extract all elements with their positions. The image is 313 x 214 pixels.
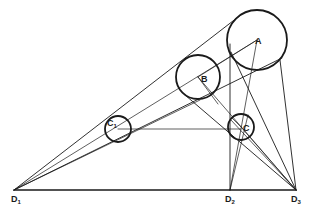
label-a: A <box>255 36 262 46</box>
label-d3-sub: 3 <box>298 199 302 205</box>
geometric-diagram: A B C C1 D1 D2 D3 <box>0 0 313 214</box>
label-c1: C1 <box>107 118 118 129</box>
label-c1-sub: 1 <box>114 123 118 129</box>
label-b: B <box>201 74 208 84</box>
label-c: C <box>243 123 250 133</box>
label-d1: D1 <box>11 194 22 205</box>
line-d1-b-lower <box>14 100 200 190</box>
label-d2-sub: 2 <box>232 199 236 205</box>
tangent-d3-a-right <box>280 60 296 190</box>
tangent-d1-upper <box>14 14 242 190</box>
label-d3: D3 <box>291 194 302 205</box>
label-d2: D2 <box>225 194 236 205</box>
line-d3-b-tangent <box>185 95 296 190</box>
label-d1-sub: 1 <box>18 199 22 205</box>
tangent-d3-a-left <box>231 52 296 190</box>
line-d3-c <box>231 120 296 190</box>
